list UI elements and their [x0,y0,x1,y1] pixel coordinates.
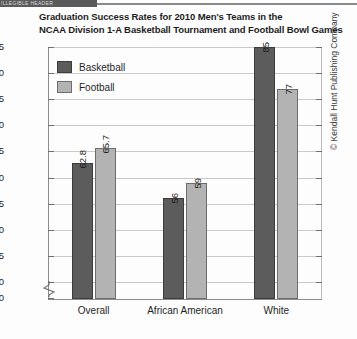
y-tick-right [316,73,322,74]
y-axis-label: 65 [0,146,4,156]
y-axis-line [48,47,49,300]
y-tick-right [316,282,322,283]
y-tick [48,99,54,100]
chart-legend: Basketball Football [57,57,153,97]
y-tick-right [316,204,322,205]
legend-label-football: Football [79,82,115,93]
y-tick [48,178,54,179]
bar-value-label: 85 [260,42,270,53]
bar-football-african-american [186,183,207,299]
y-tick-right [316,47,322,48]
x-axis-category-label: White [206,305,346,316]
y-tick-right [316,256,322,257]
publisher-credit: © Kendall Hunt Publishing Company [330,12,339,150]
chart-figure: ILLEGIBLE HEADER Graduation Success Rate… [0,0,357,339]
bar-value-label: 65.7 [101,135,111,154]
header-rule [97,3,357,5]
y-tick-right [316,230,322,231]
chart-title-line-2: NCAA Division 1-A Basketball Tournament … [39,24,349,37]
y-tick-right [316,125,322,126]
y-axis-label: 50 [0,225,4,235]
y-axis-label: 75 [0,94,4,104]
y-axis-label: 60 [0,173,4,183]
y-tick [48,230,54,231]
legend-swatch-football [57,81,72,93]
y-axis-label: 70 [0,120,4,130]
axis-break-icon [43,281,55,297]
legend-label-basketball: Basketball [79,62,125,73]
chart-title: Graduation Success Rates for 2010 Men's … [39,11,349,36]
chart-title-line-1: Graduation Success Rates for 2010 Men's … [39,11,349,24]
y-axis-label: 85 [0,42,4,52]
y-axis-label: 0 [0,293,4,303]
bar-value-label: 59 [192,178,202,189]
y-tick [48,125,54,126]
bar-value-label: 62.8 [78,150,88,169]
y-tick-right [316,99,322,100]
bar-football-overall [95,148,116,299]
y-tick [48,47,54,48]
bar-basketball-white [254,47,275,299]
y-tick-right [316,178,322,179]
y-axis-label: 40 [0,277,4,287]
y-tick [48,256,54,257]
bar-basketball-overall [72,163,93,299]
bar-basketball-african-american [163,198,184,299]
legend-swatch-basketball [57,61,72,73]
bar-football-white [277,89,298,299]
plot-right-border [321,47,322,300]
y-axis-label: 80 [0,68,4,78]
x-axis-line [48,299,322,300]
bar-value-label: 77 [283,84,293,95]
y-axis-label: 45 [0,251,4,261]
bar-value-label: 56 [169,193,179,204]
y-tick [48,151,54,152]
cropped-header-fragment: ILLEGIBLE HEADER [0,0,97,7]
y-tick-right [316,151,322,152]
y-axis-label: 55 [0,199,4,209]
y-tick [48,298,54,299]
legend-item-basketball: Basketball [57,57,153,77]
gridline [48,47,322,48]
legend-item-football: Football [57,77,153,97]
y-tick [48,204,54,205]
y-tick [48,73,54,74]
